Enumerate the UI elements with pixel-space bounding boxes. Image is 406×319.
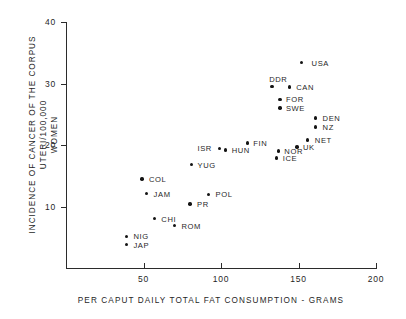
x-axis-title: PER CAPUT DAILY TOTAL FAT CONSUMPTION - … <box>36 296 386 305</box>
data-point <box>140 177 143 180</box>
data-point <box>153 217 156 220</box>
data-point-label: JAM <box>154 190 171 199</box>
data-point-label: DEN <box>323 114 341 123</box>
y-axis-title-line2: WOMEN <box>49 10 60 260</box>
x-tick-label: 50 <box>129 274 159 284</box>
data-point <box>173 224 176 227</box>
data-point-label: CHI <box>161 215 176 224</box>
y-axis-title: INCIDENCE OF CANCER OF THE CORPUS UTERI/… <box>27 10 60 260</box>
data-point <box>275 156 278 159</box>
x-tick-label: 150 <box>284 274 314 284</box>
data-point <box>314 125 317 128</box>
data-point <box>125 243 128 246</box>
data-point <box>277 149 280 152</box>
x-tick-mark <box>221 263 222 269</box>
data-point-label: POL <box>216 190 233 199</box>
x-tick-label: 200 <box>361 274 391 284</box>
data-point <box>300 61 303 64</box>
data-point <box>190 163 193 166</box>
data-point <box>224 148 227 151</box>
y-tick-mark <box>61 207 67 208</box>
x-tick-label: 100 <box>206 274 236 284</box>
data-point <box>218 147 221 150</box>
data-point <box>207 193 210 196</box>
data-point <box>306 138 309 141</box>
data-point <box>145 192 148 195</box>
data-point-label: FIN <box>253 139 267 148</box>
data-point <box>246 141 249 144</box>
data-point <box>188 202 191 205</box>
data-point <box>125 235 128 238</box>
data-point <box>314 116 317 119</box>
data-point-label: NET <box>315 136 332 145</box>
scatter-chart: 10203040 50100150200 INCIDENCE OF CANCER… <box>0 0 406 319</box>
x-tick-mark <box>376 263 377 269</box>
data-point-label: YUG <box>198 161 216 170</box>
data-point <box>278 106 281 109</box>
data-point <box>278 98 281 101</box>
data-point-label: NZ <box>323 123 334 132</box>
y-tick-mark <box>61 145 67 146</box>
y-tick-mark <box>61 22 67 23</box>
data-point-label: PR <box>197 200 209 209</box>
data-point-label: JAP <box>133 241 149 250</box>
data-point-label: ICE <box>283 154 297 163</box>
data-point-label: CAN <box>296 83 314 92</box>
data-point-label: ROM <box>182 222 202 231</box>
data-point <box>270 85 273 88</box>
data-point-label: NIG <box>133 232 148 241</box>
data-point-label: ISR <box>197 144 211 153</box>
data-point-label: HUN <box>232 146 250 155</box>
data-point-label: DDR <box>269 75 287 84</box>
x-tick-mark <box>299 263 300 269</box>
data-point-label: UK <box>303 143 315 152</box>
data-point <box>288 85 291 88</box>
data-point-label: USA <box>312 59 329 68</box>
data-point-label: SWE <box>286 104 305 113</box>
data-point-label: COL <box>149 175 166 184</box>
x-tick-mark <box>144 263 145 269</box>
y-axis-title-line1: INCIDENCE OF CANCER OF THE CORPUS UTERI/… <box>27 10 49 260</box>
y-tick-mark <box>61 84 67 85</box>
